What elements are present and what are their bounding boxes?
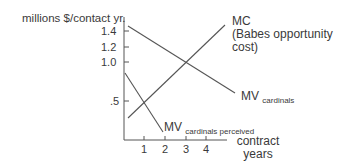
mv-cardinals-label-sub: cardinals <box>262 96 294 105</box>
y-tick-1.0: 1.0 <box>101 56 116 68</box>
y-tick-0.5: .5 <box>110 95 119 107</box>
mv-cardinals-label-main: MV <box>241 89 259 103</box>
mv-cardinals-line <box>128 26 235 93</box>
x-tick-1: 1 <box>141 143 147 155</box>
mv-perceived-label-main: MV <box>164 120 182 134</box>
y-tick-1.2: 1.2 <box>101 41 116 53</box>
x-axis-label-text: contract years <box>232 135 284 161</box>
x-tick-3: 3 <box>183 143 189 155</box>
y-axis-label: millions $/contact yr. <box>22 12 126 24</box>
mc-label-note-2: cost) <box>232 41 333 54</box>
y-tick-1.4: 1.4 <box>101 25 116 37</box>
mv-perceived-label: MV cardinals perceived <box>164 121 254 135</box>
mc-label: MC (Babes opportunity cost) <box>232 15 333 54</box>
mv-cardinals-label: MV cardinals <box>241 90 294 104</box>
mv-perceived-line <box>125 73 163 132</box>
mc-line <box>128 25 225 118</box>
mv-perceived-label-sub: cardinals perceived <box>185 127 254 136</box>
x-axis-label: contract years <box>232 135 292 161</box>
x-tick-4: 4 <box>203 143 209 155</box>
x-tick-2: 2 <box>162 143 168 155</box>
